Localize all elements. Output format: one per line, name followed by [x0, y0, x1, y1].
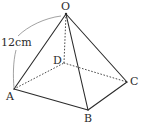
vertex-label-D: D — [53, 55, 62, 66]
square-pyramid-drawing — [0, 0, 142, 128]
edge-BC — [88, 82, 127, 110]
vertex-label-B: B — [84, 113, 92, 124]
edge-OC — [66, 14, 127, 82]
dimension-leader-lower — [13, 50, 16, 88]
edge-AB — [14, 89, 88, 110]
vertex-label-A: A — [6, 91, 14, 102]
geometry-figure: O A B C D 12cm — [0, 0, 142, 128]
edge-OA — [14, 14, 66, 89]
vertex-label-O: O — [61, 1, 70, 12]
edge-OD-hidden — [64, 14, 66, 63]
dimension-leader-upper — [18, 16, 61, 36]
edge-OB — [66, 14, 88, 110]
edge-DC-hidden — [64, 63, 127, 82]
dimension-label-12cm: 12cm — [1, 37, 32, 48]
apex-vertex-dot — [65, 13, 67, 15]
vertex-label-C: C — [130, 76, 138, 87]
